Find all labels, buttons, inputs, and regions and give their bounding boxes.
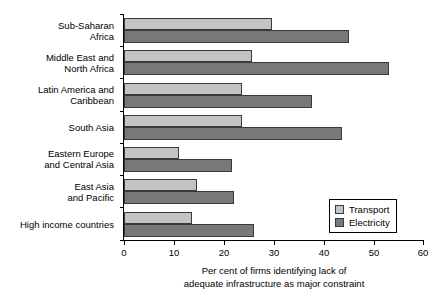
y-axis-label-middle-east-north-africa: Middle East and North Africa: [0, 52, 114, 74]
bar-electricity-south-asia: [124, 127, 342, 140]
bar-chart: Sub-Saharan Africa Middle East and North…: [0, 0, 438, 308]
y-axis-category-labels: Sub-Saharan Africa Middle East and North…: [0, 14, 118, 240]
bar-transport-south-asia: [124, 115, 242, 127]
y-axis-tick: [120, 14, 124, 15]
y-axis-label-sub-saharan-africa: Sub-Saharan Africa: [0, 20, 114, 42]
y-axis-tick: [120, 207, 124, 208]
bar-electricity-high-income-countries: [124, 224, 254, 237]
transport-swatch-icon: [335, 205, 344, 214]
y-axis-tick: [120, 143, 124, 144]
y-axis-tick: [120, 46, 124, 47]
y-axis-tick: [120, 111, 124, 112]
electricity-swatch-icon: [335, 218, 344, 227]
bar-electricity-sub-saharan-africa: [124, 30, 349, 43]
x-axis-tick-label-20: 20: [212, 247, 236, 258]
bar-transport-middle-east-north-africa: [124, 50, 252, 62]
legend-label-electricity: Electricity: [349, 217, 390, 228]
y-axis-label-east-asia-pacific: East Asia and Pacific: [0, 181, 114, 203]
bar-electricity-east-asia-pacific: [124, 191, 234, 204]
x-axis-tick-label-60: 60: [411, 247, 435, 258]
x-axis-tick: [174, 241, 175, 245]
x-axis-tick: [224, 241, 225, 245]
bar-electricity-eastern-europe-central-asia: [124, 159, 232, 172]
x-axis-tick: [274, 241, 275, 245]
x-axis-title: Per cent of firms identifying lack of ad…: [124, 264, 424, 290]
x-axis-tick-label-50: 50: [362, 247, 386, 258]
x-axis-tick: [324, 241, 325, 245]
legend-item-transport: Transport: [335, 203, 390, 216]
bar-transport-high-income-countries: [124, 212, 192, 224]
legend: Transport Electricity: [329, 199, 397, 233]
y-axis-label-latin-america-caribbean: Latin America and Caribbean: [0, 84, 114, 106]
bar-transport-sub-saharan-africa: [124, 18, 272, 30]
x-axis-title-line-2: adequate infrastructure as major constra…: [124, 277, 424, 290]
x-axis-tick: [374, 241, 375, 245]
x-axis-tick-label-40: 40: [312, 247, 336, 258]
y-axis-label-eastern-europe-central-asia: Eastern Europe and Central Asia: [0, 148, 114, 170]
bar-electricity-middle-east-north-africa: [124, 62, 389, 75]
y-axis-tick: [120, 78, 124, 79]
y-axis-tick: [120, 175, 124, 176]
bar-transport-east-asia-pacific: [124, 179, 197, 191]
bar-electricity-latin-america-caribbean: [124, 95, 312, 108]
x-axis-tick-label-30: 30: [262, 247, 286, 258]
y-axis-label-high-income-countries: High income countries: [0, 219, 114, 230]
y-axis-label-south-asia: South Asia: [0, 122, 114, 133]
legend-item-electricity: Electricity: [335, 216, 390, 229]
legend-label-transport: Transport: [349, 204, 389, 215]
x-axis-tick-label-10: 10: [162, 247, 186, 258]
bar-transport-latin-america-caribbean: [124, 83, 242, 95]
x-axis-title-line-1: Per cent of firms identifying lack of: [124, 264, 424, 277]
x-axis-tick-label-0: 0: [112, 247, 136, 258]
x-axis-tick: [124, 241, 125, 245]
x-axis-tick: [423, 241, 424, 245]
bar-transport-eastern-europe-central-asia: [124, 147, 179, 159]
